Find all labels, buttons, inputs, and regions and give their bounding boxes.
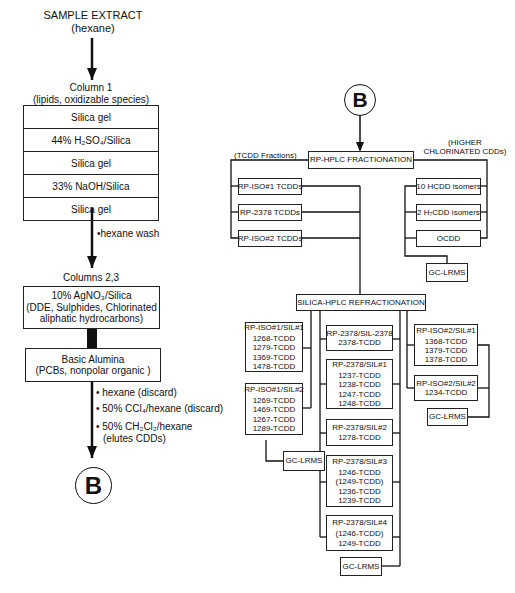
isomer-item: 1478-TCDD bbox=[253, 362, 296, 371]
group-title: RP-2378/SIL#1 bbox=[332, 360, 387, 369]
sample-extract-label: SAMPLE EXTRACT (hexane) bbox=[38, 9, 148, 34]
columns23-label: Columns 2,3 bbox=[23, 272, 159, 284]
column1-layer: Silica gel bbox=[24, 152, 158, 175]
elution-note-ccl4: • 50% CCl₄/hexane (discard) bbox=[96, 403, 223, 415]
column1-layer: Silica gel bbox=[24, 198, 158, 220]
elution-note-ch2cl2: • 50% CH₂Cl₂/hexane bbox=[96, 421, 192, 433]
silica-hplc-refractionation-box: SILICA-HPLC REFRACTIONATION bbox=[296, 294, 426, 311]
higher-chlorinated-label: (HIGHER CHLORINATED CDDs) bbox=[415, 138, 515, 156]
rp2378-sil2378-box: RP-2378/SIL-2378 2378-TCDD bbox=[326, 325, 393, 351]
column1-layer: 33% NaOH/Silica bbox=[24, 175, 158, 198]
rp2378-sil4-box: RP-2378/SIL#4 (1246-TCDD) 1249-TCDD bbox=[326, 515, 393, 551]
tcdd-fraction-box: RP-2378 TCDDs bbox=[238, 204, 302, 221]
isomer-item: 1236-TCDD bbox=[338, 487, 381, 496]
isomer-item: 1268-TCDD bbox=[253, 334, 296, 343]
agno3-silica-box: 10% AgNO₃/Silica (DDE, Sulphides, Chlori… bbox=[23, 286, 160, 329]
isomer-item: 1279-TCDD bbox=[253, 343, 296, 352]
higher-label-2: CHLORINATED CDDs) bbox=[415, 147, 515, 156]
rp-hplc-fractionation-box: RP-HPLC FRACTIONATION bbox=[308, 151, 414, 169]
isomer-item: (1246-TCDD) bbox=[335, 529, 383, 538]
isomer-item: 1269-TCDD bbox=[253, 396, 296, 405]
higher-cdd-box: 2 H₇CDD isomers bbox=[416, 204, 481, 221]
tcdd-fractions-label: (TCDD Fractions) bbox=[234, 151, 297, 160]
hexane-wash-note: •hexane wash bbox=[97, 228, 159, 240]
agno3-desc-1: (DDE, Sulphides, Chlorinated bbox=[26, 302, 157, 314]
rp2378-sil2-box: RP-2378/SIL#2 1278-TCDD bbox=[326, 419, 393, 446]
isomer-item: 1267-TCDD bbox=[253, 415, 296, 424]
sample-extract-title: SAMPLE EXTRACT bbox=[38, 9, 148, 22]
iso2-sil2-box: RP-ISO#2/SIL#2 1234-TCDD bbox=[414, 375, 478, 401]
isomer-item: 1248-TCDD bbox=[338, 399, 381, 408]
isomer-item: (1249-TCDD) bbox=[335, 477, 383, 486]
isomer-item: 1237-TCDD bbox=[338, 371, 381, 380]
agno3-title: 10% AgNO₃/Silica bbox=[51, 290, 131, 302]
isomer-item: 1247-TCDD bbox=[338, 390, 381, 399]
alumina-desc: (PCBs, nonpolar organic ) bbox=[35, 365, 150, 377]
column1-layer: 44% H₂SO₄/Silica bbox=[24, 129, 158, 152]
isomer-item: 2378-TCDD bbox=[338, 338, 381, 347]
gc-lrms-box-2378: GC-LRMS bbox=[340, 557, 382, 576]
group-title: RP-2378/SIL#2 bbox=[332, 423, 387, 432]
connector-b-left: B bbox=[75, 467, 112, 504]
alumina-title: Basic Alumina bbox=[62, 354, 125, 366]
group-title: RP-ISO#2/SIL#1 bbox=[416, 326, 476, 335]
isomer-item: 1289-TCDD bbox=[253, 424, 296, 433]
column1-label: Column 1 (lipids, oxidizable species) bbox=[23, 82, 159, 105]
elution-note-hexane: • hexane (discard) bbox=[96, 387, 177, 399]
isomer-item: 1368-TCDD bbox=[425, 337, 468, 346]
isomer-item: 1239-TCDD bbox=[338, 496, 381, 505]
iso2-sil1-box: RP-ISO#2/SIL#1 1368-TCDD 1379-TCDD 1378-… bbox=[414, 324, 478, 366]
higher-cdd-box: 10 HCDD isomers bbox=[416, 178, 481, 195]
rp2378-sil1-box: RP-2378/SIL#1 1237-TCDD 1238-TCDD 1247-T… bbox=[326, 359, 393, 409]
isomer-item: 1369-TCDD bbox=[253, 353, 296, 362]
higher-label-1: (HIGHER bbox=[415, 138, 515, 147]
group-title: RP-ISO#1/SIL#2 bbox=[244, 385, 304, 394]
column1-layer: Silica gel bbox=[24, 106, 158, 129]
higher-cdd-box: OCDD bbox=[416, 230, 481, 247]
elution-note-elutes: (elutes CDDs) bbox=[103, 433, 166, 445]
isomer-item: 1234-TCDD bbox=[425, 388, 468, 397]
sample-extract-solvent: (hexane) bbox=[38, 22, 148, 35]
group-title: RP-2378/SIL-2378 bbox=[326, 329, 392, 338]
isomer-item: 1469-TCDD bbox=[253, 405, 296, 414]
iso1-sil2-box: RP-ISO#1/SIL#2 1269-TCDD 1469-TCDD 1267-… bbox=[245, 383, 303, 435]
isomer-item: 1249-TCDD bbox=[338, 539, 381, 548]
group-title: RP-2378/SIL#3 bbox=[332, 457, 387, 466]
connector-b-right: B bbox=[344, 84, 376, 116]
column1-title: Column 1 bbox=[23, 82, 159, 94]
isomer-item: 1278-TCDD bbox=[338, 433, 381, 442]
tcdd-fraction-box: RP-ISO#2 TCDDs bbox=[238, 230, 302, 247]
gc-lrms-box-iso1: GC-LRMS bbox=[283, 451, 325, 471]
gc-lrms-box-higher: GC-LRMS bbox=[426, 263, 468, 282]
basic-alumina-box: Basic Alumina (PCBs, nonpolar organic ) bbox=[25, 348, 161, 382]
iso1-sil1-box: RP-ISO#1/SIL#1 1268-TCDD 1279-TCDD 1369-… bbox=[245, 322, 303, 372]
isomer-item: 1246-TCDD bbox=[338, 468, 381, 477]
isomer-item: 1378-TCDD bbox=[425, 355, 468, 364]
group-title: RP-ISO#1/SIL#1 bbox=[244, 323, 304, 332]
group-title: RP-ISO#2/SIL#2 bbox=[416, 379, 476, 388]
group-title: RP-2378/SIL#4 bbox=[332, 518, 387, 527]
isomer-item: 1379-TCDD bbox=[425, 346, 468, 355]
column1-subtitle: (lipids, oxidizable species) bbox=[23, 94, 159, 106]
gc-lrms-box-iso2: GC-LRMS bbox=[427, 408, 468, 426]
isomer-item: 1238-TCDD bbox=[338, 380, 381, 389]
agno3-desc-2: aliphatic hydrocarbons) bbox=[40, 313, 143, 325]
rp2378-sil3-box: RP-2378/SIL#3 1246-TCDD (1249-TCDD) 1236… bbox=[326, 455, 393, 507]
tcdd-fraction-box: RP-ISO#1 TCDDs bbox=[238, 178, 302, 195]
column1-stack: Silica gel 44% H₂SO₄/Silica Silica gel 3… bbox=[23, 105, 159, 221]
